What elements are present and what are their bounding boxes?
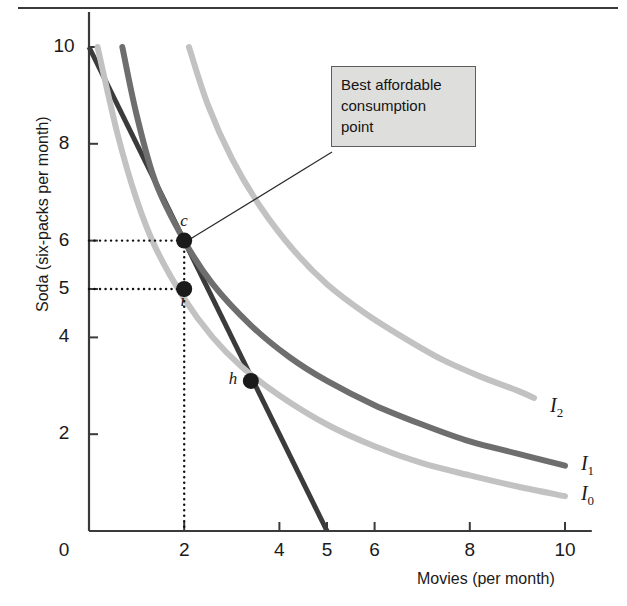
y-tick-label-2: 2 — [44, 422, 84, 444]
series-budget-line — [89, 47, 327, 531]
callout-line-3: point — [341, 116, 466, 137]
y-tick-label-4: 4 — [44, 325, 84, 347]
x-tick-label-2: 2 — [164, 539, 204, 561]
figure-container: 024568102456810 Soda (six-packs per mont… — [0, 0, 627, 606]
data-point-h[interactable] — [243, 373, 259, 389]
point-label-c: c — [180, 211, 188, 231]
x-axis-title: Movies (per month) — [417, 570, 555, 588]
point-label-i: i — [180, 291, 185, 311]
point-label-h: h — [229, 369, 238, 389]
callout-line-1: Best affordable — [341, 74, 466, 95]
y-tick-label-0: 0 — [44, 539, 84, 561]
x-tick-label-5: 5 — [307, 539, 347, 561]
callout-line-2: consumption — [341, 95, 466, 116]
y-axis-title: Soda (six-packs per month) — [34, 116, 52, 312]
callout-leader-line — [186, 152, 332, 242]
data-point-c[interactable] — [176, 233, 192, 249]
curve-label-i1: I1 — [581, 452, 594, 479]
x-tick-label-4: 4 — [259, 539, 299, 561]
x-tick-label-10: 10 — [545, 539, 585, 561]
chart-canvas — [0, 0, 627, 606]
best-affordable-callout: Best affordable consumption point — [331, 66, 476, 147]
x-tick-label-6: 6 — [355, 539, 395, 561]
curve-label-i2: I2 — [550, 394, 563, 421]
y-tick-label-10: 10 — [44, 35, 84, 57]
curve-label-i0: I0 — [581, 482, 594, 509]
x-tick-label-8: 8 — [450, 539, 490, 561]
